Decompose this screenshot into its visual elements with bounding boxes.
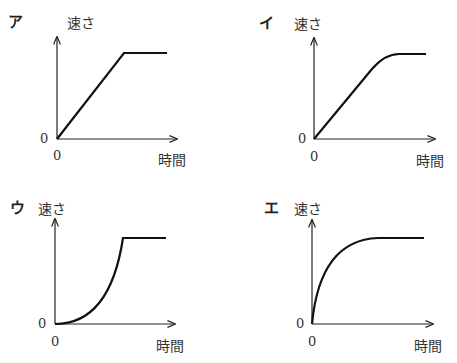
x-axis-label: 時間 bbox=[158, 152, 186, 168]
y-origin-label: 0 bbox=[40, 131, 48, 146]
speed-curve bbox=[314, 54, 426, 139]
x-axis-label: 時間 bbox=[156, 338, 184, 354]
chart-i: イ 速さ 0 0 時間 bbox=[259, 14, 444, 169]
y-origin-label: 0 bbox=[38, 316, 46, 331]
x-origin-label: 0 bbox=[53, 148, 61, 163]
y-origin-label: 0 bbox=[296, 316, 304, 331]
x-axis-label: 時間 bbox=[414, 338, 442, 354]
speed-curve bbox=[312, 238, 424, 324]
chart-u: ウ 速さ 0 0 時間 bbox=[10, 199, 184, 354]
x-axis-label: 時間 bbox=[416, 153, 444, 169]
option-label: ウ bbox=[10, 199, 25, 217]
x-origin-label: 0 bbox=[51, 334, 59, 349]
y-axis-label: 速さ bbox=[38, 201, 66, 217]
chart-e: エ 速さ 0 0 時間 bbox=[264, 199, 442, 354]
y-axis-label: 速さ bbox=[67, 15, 95, 31]
y-axis-label: 速さ bbox=[294, 16, 322, 32]
speed-time-graphs: ア 速さ 0 0 時間 イ 速さ 0 0 時間 ウ 速さ 0 0 時間 エ 速さ… bbox=[0, 0, 457, 363]
speed-curve bbox=[55, 238, 166, 324]
chart-a: ア 速さ 0 0 時間 bbox=[8, 13, 186, 168]
x-origin-label: 0 bbox=[310, 149, 318, 164]
y-axis-label: 速さ bbox=[294, 201, 322, 217]
option-label: ア bbox=[8, 13, 23, 31]
option-label: イ bbox=[259, 14, 274, 32]
y-origin-label: 0 bbox=[298, 131, 306, 146]
speed-curve bbox=[57, 53, 167, 139]
x-origin-label: 0 bbox=[308, 334, 316, 349]
option-label: エ bbox=[264, 199, 279, 217]
